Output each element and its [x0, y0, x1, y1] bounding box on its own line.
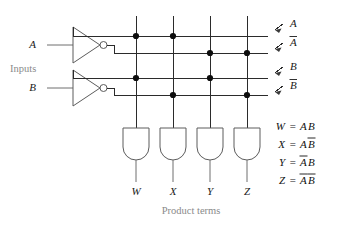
- col-y-label: Y: [207, 185, 215, 197]
- equation-x-term1: A: [299, 138, 307, 150]
- equation-w-eq-sign: =: [289, 120, 296, 132]
- equation-x-eq-sign: =: [289, 138, 296, 150]
- equation-y-term2: B: [308, 156, 315, 168]
- equation-y: Y = A B: [279, 156, 315, 168]
- rail-b-pointer: [275, 67, 283, 76]
- equation-x: X = A B: [277, 138, 315, 150]
- col-x-label: X: [169, 185, 178, 197]
- input-a-label: A: [28, 38, 36, 50]
- rail-a-label: A: [289, 17, 297, 29]
- and-gate-w: [123, 128, 149, 182]
- and-gate-z: [234, 128, 260, 182]
- equation-w-lhs: W: [276, 120, 286, 132]
- circuit-canvas: A B Inputs A A B B W X Y Z Product terms…: [0, 0, 343, 225]
- rail-abar-label: A: [289, 36, 297, 48]
- col-z-label: Z: [244, 185, 251, 197]
- equation-z-term2: B: [308, 174, 315, 186]
- and-gate-w-body: [123, 128, 149, 160]
- input-b-label: B: [29, 81, 36, 93]
- equation-z-term1: A: [299, 174, 307, 186]
- equation-w: W = A B: [276, 120, 315, 132]
- rail-bbar-group: [107, 88, 268, 95]
- equation-y-eq-sign: =: [289, 156, 296, 168]
- junction-col-w-rail-b: [133, 75, 139, 81]
- equation-x-term2: B: [308, 138, 315, 150]
- equation-w-term1: A: [299, 120, 307, 132]
- inverter-b-bubble: [100, 85, 107, 92]
- rail-b-label: B: [290, 60, 297, 72]
- equation-w-term2: B: [308, 120, 315, 132]
- junction-col-x-rail-a: [170, 33, 176, 39]
- junction-col-x-rail-bbar: [170, 92, 176, 98]
- inverter-a-bubble: [100, 42, 107, 49]
- and-gate-y-body: [197, 128, 223, 160]
- rail-a-pointer: [275, 24, 283, 33]
- and-gate-x-body: [160, 128, 186, 160]
- equation-z-lhs: Z: [279, 174, 286, 186]
- inputs-group-label: Inputs: [10, 63, 36, 74]
- junction-col-z-rail-bbar: [244, 92, 250, 98]
- rail-bbar-pointer: [275, 86, 283, 95]
- junction-col-z-rail-abar: [244, 50, 250, 56]
- equation-y-term1: A: [299, 156, 307, 168]
- junction-col-y-rail-b: [207, 75, 213, 81]
- rail-bbar-label: B: [290, 79, 297, 91]
- col-w-label: W: [131, 185, 141, 197]
- equation-z: Z = A B: [279, 174, 316, 186]
- rail-abar-pointer: [275, 43, 283, 52]
- rail-bbar-label-group: B: [290, 79, 298, 91]
- rail-abar-group: [107, 45, 268, 53]
- rail-abar-label-group: A: [289, 36, 297, 48]
- and-gate-z-body: [234, 128, 260, 160]
- equation-y-lhs: Y: [279, 156, 287, 168]
- equation-x-lhs: X: [277, 138, 286, 150]
- and-gate-y: [197, 128, 223, 182]
- and-gate-x: [160, 128, 186, 182]
- junction-col-y-rail-abar: [207, 50, 213, 56]
- figure-caption: Product terms: [162, 205, 221, 216]
- logic-diagram-figure: A B Inputs A A B B W X Y Z Product terms…: [0, 0, 343, 225]
- inverter-b: [47, 70, 107, 106]
- junction-col-w-rail-a: [133, 33, 139, 39]
- equation-z-eq-sign: =: [289, 174, 296, 186]
- inverter-a-triangle: [73, 27, 100, 63]
- rail-b-group: [73, 70, 268, 78]
- inverter-a: [47, 27, 107, 63]
- inverter-b-triangle: [73, 70, 100, 106]
